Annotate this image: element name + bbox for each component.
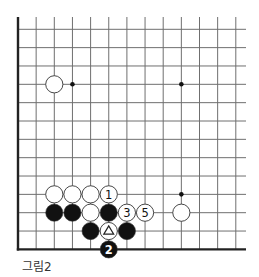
white-stone: 5 [136, 204, 153, 221]
star-point [179, 82, 184, 87]
go-board-diagram: 1352 [0, 0, 259, 277]
stone-disc [46, 76, 63, 93]
star-point [70, 82, 75, 87]
white-stone [46, 186, 63, 203]
move-number: 2 [105, 243, 113, 257]
white-stone: 1 [100, 186, 117, 203]
move-number: 1 [105, 188, 112, 202]
stone-disc [64, 204, 81, 221]
black-stone [82, 222, 99, 239]
stone-disc [100, 204, 117, 221]
stone-disc [82, 204, 99, 221]
move-number: 5 [141, 206, 148, 220]
stone-disc [82, 222, 99, 239]
black-stone: 2 [100, 241, 117, 258]
white-stone [82, 186, 99, 203]
white-stone [100, 222, 117, 239]
stone-disc [46, 186, 63, 203]
white-stone: 3 [118, 204, 135, 221]
black-stone [64, 204, 81, 221]
white-stone [82, 204, 99, 221]
move-number: 3 [123, 206, 130, 220]
white-stone [173, 204, 190, 221]
stone-disc [173, 204, 190, 221]
black-stone [100, 204, 117, 221]
star-point [179, 192, 184, 197]
stone-disc [118, 222, 135, 239]
black-stone [118, 222, 135, 239]
diagram-caption: 그림2 [22, 257, 52, 274]
stone-disc [64, 186, 81, 203]
stone-disc [82, 186, 99, 203]
black-stone [46, 204, 63, 221]
white-stone [64, 186, 81, 203]
white-stone [46, 76, 63, 93]
stone-disc [46, 204, 63, 221]
